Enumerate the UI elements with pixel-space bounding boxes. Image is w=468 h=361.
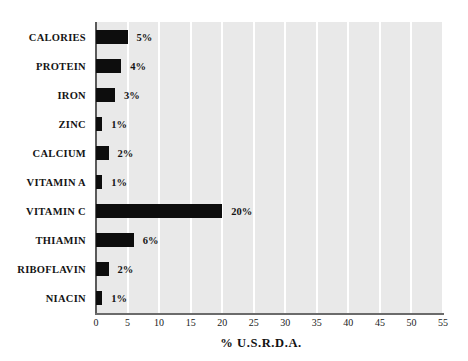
bar-row: THIAMIN6% (0, 226, 468, 255)
category-label: CALCIUM (33, 147, 86, 158)
bar-row: IRON3% (0, 80, 468, 109)
bar-row: CALCIUM2% (0, 138, 468, 167)
category-label: RIBOFLAVIN (17, 264, 86, 275)
bar-value-label: 6% (143, 235, 159, 246)
bar-row: PROTEIN4% (0, 51, 468, 80)
x-tick-55: 55 (423, 317, 463, 328)
bar-value-label: 4% (130, 60, 146, 71)
bar (96, 233, 134, 247)
bar (96, 146, 109, 160)
x-axis-spine (95, 313, 444, 315)
bar-value-label: 20% (231, 206, 252, 217)
category-label: VITAMIN A (27, 177, 86, 188)
category-label: THIAMIN (35, 235, 86, 246)
bar (96, 88, 115, 102)
bar-chart-figure: CALORIES5%PROTEIN4%IRON3%ZINC1%CALCIUM2%… (0, 0, 468, 361)
bar-value-label: 5% (137, 31, 153, 42)
category-label: IRON (57, 89, 86, 100)
bar-row: VITAMIN C20% (0, 197, 468, 226)
bar (96, 59, 121, 73)
bar-row: RIBOFLAVIN2% (0, 255, 468, 284)
bar-value-label: 1% (111, 118, 127, 129)
bar-row: ZINC1% (0, 109, 468, 138)
category-label: ZINC (59, 118, 86, 129)
bar-value-label: 1% (111, 293, 127, 304)
bar-row: VITAMIN A1% (0, 168, 468, 197)
bar-value-label: 2% (118, 147, 134, 158)
bar-value-label: 3% (124, 89, 140, 100)
category-label: VITAMIN C (26, 206, 86, 217)
category-label: PROTEIN (36, 60, 86, 71)
bar-row: NIACIN1% (0, 284, 468, 313)
bar (96, 175, 102, 189)
bar-row: CALORIES5% (0, 22, 468, 51)
bar (96, 204, 222, 218)
category-label: NIACIN (46, 293, 86, 304)
bar (96, 291, 102, 305)
category-label: CALORIES (29, 31, 86, 42)
bar-value-label: 1% (111, 177, 127, 188)
bar (96, 117, 102, 131)
bar (96, 262, 109, 276)
bar (96, 30, 128, 44)
bar-value-label: 2% (118, 264, 134, 275)
x-axis-title: % U.S.R.D.A. (0, 336, 468, 351)
